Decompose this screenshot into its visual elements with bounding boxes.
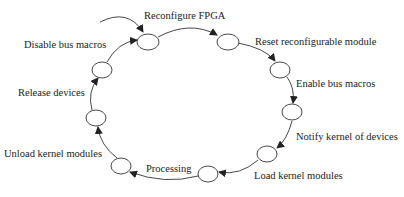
- edge-enable-to-notify: [287, 77, 293, 103]
- edge-disable-to-reconfigure: [107, 40, 137, 62]
- state-node-load-kernel-modules: [257, 146, 277, 162]
- label-reconfigure-fpga: Reconfigure FPGA: [144, 10, 226, 21]
- state-node-processing: [198, 166, 218, 182]
- edge-notify-to-load: [277, 121, 292, 148]
- edge-release-to-disable: [90, 78, 98, 110]
- label-enable-bus-macros: Enable bus macros: [296, 78, 375, 89]
- state-node-disable-bus-macros: [92, 62, 112, 78]
- state-node-reconfigure-fpga: [137, 34, 159, 50]
- state-node-notify-kernel: [282, 104, 302, 120]
- label-release-devices: Release devices: [18, 87, 85, 98]
- state-node-unload-kernel-modules: [111, 158, 131, 174]
- label-disable-bus-macros: Disable bus macros: [24, 39, 106, 50]
- state-node-reset-module: [217, 34, 239, 50]
- label-unload-kernel-modules: Unload kernel modules: [4, 148, 102, 159]
- label-load-kernel-modules: Load kernel modules: [254, 170, 343, 181]
- label-notify-kernel: Notify kernel of devices: [296, 131, 398, 142]
- edge-reconfigure-to-reset: [158, 28, 217, 37]
- edge-load-to-processing: [219, 160, 258, 173]
- state-node-release-devices: [86, 110, 106, 126]
- label-processing: Processing: [146, 163, 192, 174]
- state-node-enable-bus-macros: [270, 62, 290, 78]
- label-reset-module: Reset reconfigurable module: [255, 36, 377, 47]
- state-diagram: Reconfigure FPGA Reset reconfigurable mo…: [0, 0, 404, 197]
- edge-start-to-reconfigure: [100, 17, 143, 32]
